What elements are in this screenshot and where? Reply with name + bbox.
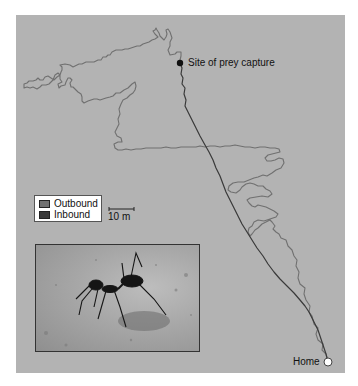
legend-label-inbound: Inbound — [54, 209, 90, 220]
outbound-swatch-icon — [39, 200, 50, 208]
scale-bar-label: 10 m — [108, 211, 130, 222]
prey-capture-marker-icon — [177, 60, 183, 66]
home-marker-icon — [324, 358, 332, 366]
legend: Outbound Inbound — [34, 195, 102, 222]
legend-item-inbound: Inbound — [39, 209, 101, 220]
home-label: Home — [293, 356, 320, 367]
ant-photo-inset — [35, 244, 200, 352]
ant-photo-icon — [36, 245, 200, 352]
legend-item-outbound: Outbound — [39, 198, 101, 209]
inbound-swatch-icon — [39, 211, 50, 219]
prey-capture-label: Site of prey capture — [188, 57, 275, 68]
legend-label-outbound: Outbound — [54, 198, 98, 209]
